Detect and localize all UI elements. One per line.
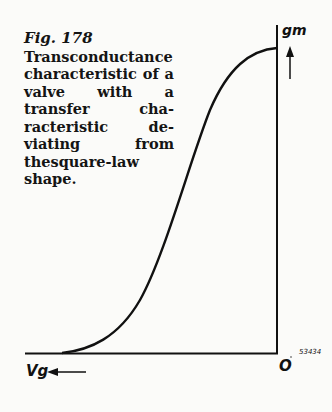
y-axis-label: gm [282,22,307,38]
x-axis-label: Vg [26,362,48,380]
transconductance-diagram [0,0,332,412]
up-arrow-icon [286,46,294,57]
drawing-number: 53434 [299,348,321,356]
left-arrow-icon [47,368,58,376]
gm-curve [62,48,277,353]
origin-label: O [279,357,292,375]
